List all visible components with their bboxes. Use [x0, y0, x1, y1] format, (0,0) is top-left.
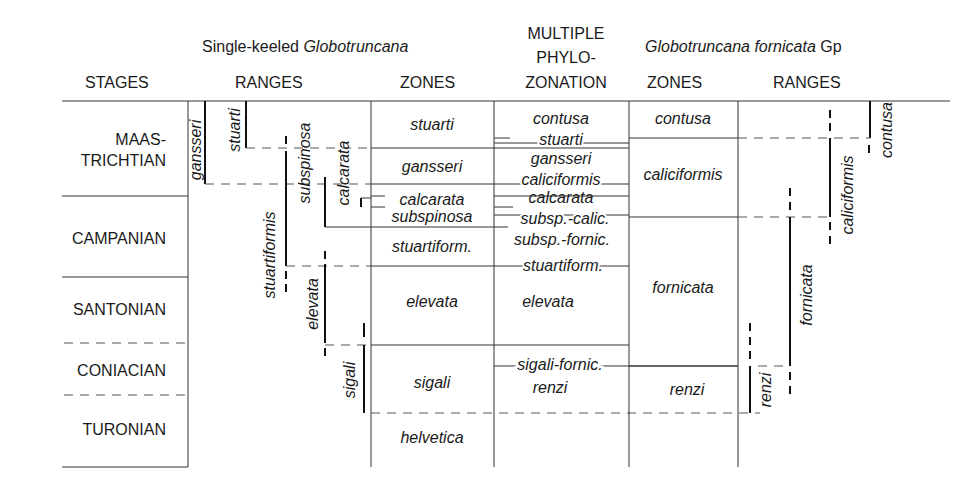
fzone-renzi: renzi	[670, 381, 705, 398]
range-label-calcarata: calcarata	[335, 140, 352, 205]
stage-maastrichtian-1: MAAS-	[115, 131, 166, 148]
mpz-caliciformis: caliciformis	[521, 171, 600, 188]
stages-header: STAGES	[85, 74, 149, 91]
mpz-sigali-fornic: sigali-fornic.	[517, 356, 602, 373]
zone-stuarti: stuarti	[410, 116, 454, 133]
range-label-caliciformis: caliciformis	[839, 155, 856, 234]
range-label-elevata: elevata	[304, 278, 321, 330]
range-label-gansseri: gansseri	[187, 119, 204, 180]
zone-stuartiform: stuartiform.	[392, 238, 472, 255]
mpz-subsp-calic: subsp.-calic.	[521, 210, 610, 227]
zone-helvetica: helvetica	[400, 429, 463, 446]
zonation-diagram: Single-keeled Globotruncana STAGES RANGE…	[0, 0, 962, 495]
mpz-calcarata: calcarata	[529, 189, 594, 206]
stage-coniacian: CONIACIAN	[77, 362, 166, 379]
stage-turonian: TURONIAN	[82, 421, 166, 438]
fzone-contusa: contusa	[655, 110, 711, 127]
mpz-gansseri: gansseri	[531, 150, 592, 167]
range-label-subspinosa: subspinosa	[296, 122, 313, 203]
mpz-stuarti: stuarti	[539, 131, 583, 148]
ranges-left-header: RANGES	[235, 74, 303, 91]
mpz-contusa: contusa	[533, 110, 589, 127]
zone-elevata: elevata	[406, 293, 458, 310]
multiple-header-line1: MULTIPLE	[527, 25, 604, 42]
zone-calcarata: calcarata	[400, 191, 465, 208]
zones-right-header: ZONES	[647, 74, 702, 91]
mpz-subsp-fornic: subsp.-fornic.	[514, 231, 610, 248]
range-label-fornicata: fornicata	[798, 264, 815, 325]
stage-santonian: SANTONIAN	[73, 301, 166, 318]
range-label-renzi: renzi	[757, 372, 774, 407]
mpz-stuartiform: stuartiform.	[523, 257, 603, 274]
zones-left-header: ZONES	[400, 74, 455, 91]
mpz-elevata: elevata	[522, 293, 574, 310]
multiple-header-line2: PHYLO-	[536, 49, 596, 66]
zone-gansseri: gansseri	[402, 158, 463, 175]
ranges-right-header: RANGES	[773, 74, 841, 91]
mpz-renzi: renzi	[533, 379, 568, 396]
fzone-fornicata: fornicata	[652, 279, 713, 296]
stage-campanian: CAMPANIAN	[72, 230, 166, 247]
fzone-caliciformis: caliciformis	[643, 166, 722, 183]
zone-sigali: sigali	[414, 374, 451, 391]
zone-subspinosa: subspinosa	[392, 208, 473, 225]
range-label-stuarti: stuarti	[226, 108, 243, 152]
multiple-header-line3: ZONATION	[525, 74, 606, 91]
range-label-stuartiformis: stuartiformis	[261, 211, 278, 298]
range-label-contusa: contusa	[878, 102, 895, 158]
fornicata-title: Globotruncana fornicata Gp	[645, 38, 842, 55]
range-label-sigali: sigali	[341, 361, 358, 398]
stage-maastrichtian-2: TRICHTIAN	[81, 152, 166, 169]
single-keeled-title: Single-keeled Globotruncana	[202, 38, 408, 55]
